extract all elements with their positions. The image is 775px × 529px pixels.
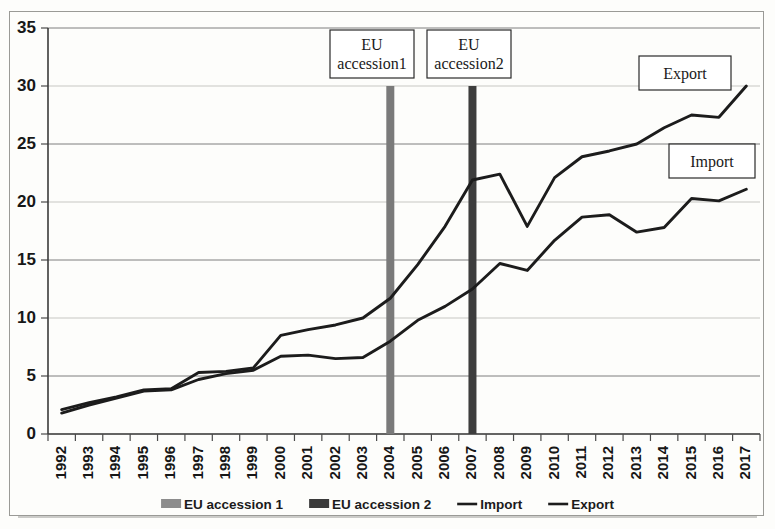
x-axis-label-2009: 2009 xyxy=(517,446,534,479)
y-axis-label-20: 20 xyxy=(17,192,36,211)
x-axis-label-1994: 1994 xyxy=(106,445,123,479)
y-axis-label-0: 0 xyxy=(27,424,36,443)
x-axis-label-1992: 1992 xyxy=(52,446,69,479)
legend-swatch-2 xyxy=(309,499,329,508)
x-axis-label-1993: 1993 xyxy=(79,446,96,479)
x-axis-label-2016: 2016 xyxy=(709,446,726,479)
callout-label-export: Export xyxy=(663,65,707,83)
accession-marker-bar-2 xyxy=(468,86,476,434)
x-axis-label-2013: 2013 xyxy=(627,446,644,479)
x-axis-label-2012: 2012 xyxy=(599,446,616,479)
line-chart: 05101520253035 1992199319941995199619971… xyxy=(0,0,775,529)
callout-label-accession1: accession1 xyxy=(337,55,406,72)
x-axis-label-2000: 2000 xyxy=(271,446,288,479)
legend-swatch-1 xyxy=(161,499,181,508)
accession-marker-bar-1 xyxy=(386,86,394,434)
x-axis-label-1999: 1999 xyxy=(243,446,260,479)
legend-label-2: EU accession 2 xyxy=(332,497,431,512)
x-axis-label-2007: 2007 xyxy=(462,446,479,479)
x-axis-label-2004: 2004 xyxy=(380,445,397,479)
series-line-import xyxy=(62,189,747,413)
x-axis-label-1995: 1995 xyxy=(134,446,151,479)
legend-label-3: Import xyxy=(480,497,523,512)
x-axis-label-2006: 2006 xyxy=(435,446,452,479)
callout-label-import: Import xyxy=(690,153,734,171)
x-axis-label-2001: 2001 xyxy=(298,446,315,479)
x-axis-ticks-group xyxy=(48,434,760,441)
x-axis-label-2017: 2017 xyxy=(736,446,753,479)
legend-label-1: EU accession 1 xyxy=(184,497,284,512)
callout-label-accession1: EU xyxy=(361,36,383,53)
y-axis-label-15: 15 xyxy=(17,250,36,269)
y-axis-label-35: 35 xyxy=(17,18,36,37)
x-axis-label-2002: 2002 xyxy=(326,446,343,479)
x-axis-label-2003: 2003 xyxy=(353,446,370,479)
callout-label-accession2: EU xyxy=(458,36,480,53)
x-axis-label-2008: 2008 xyxy=(490,446,507,479)
x-axis-labels-group: 1992199319941995199619971998199920002001… xyxy=(52,445,754,479)
callout-label-accession2: accession2 xyxy=(434,55,503,72)
x-axis-label-1996: 1996 xyxy=(161,446,178,479)
chart-container: 05101520253035 1992199319941995199619971… xyxy=(0,0,775,529)
y-axis-labels-group: 05101520253035 xyxy=(17,18,36,443)
x-axis-label-1997: 1997 xyxy=(189,446,206,479)
legend-label-4: Export xyxy=(571,497,614,512)
chart-legend: EU accession 1EU accession 2ImportExport xyxy=(18,497,757,517)
x-axis-label-2010: 2010 xyxy=(545,446,562,479)
series-line-export xyxy=(62,86,747,410)
y-axis-label-5: 5 xyxy=(27,366,36,385)
x-axis-label-1998: 1998 xyxy=(216,446,233,479)
x-axis-label-2005: 2005 xyxy=(408,446,425,479)
y-axis-label-30: 30 xyxy=(17,76,36,95)
x-axis-label-2014: 2014 xyxy=(654,445,671,479)
x-axis-label-2015: 2015 xyxy=(682,446,699,479)
x-axis-label-2011: 2011 xyxy=(572,446,589,479)
y-axis-label-10: 10 xyxy=(17,308,36,327)
series-lines-group xyxy=(62,86,747,413)
y-axis-label-25: 25 xyxy=(17,134,36,153)
